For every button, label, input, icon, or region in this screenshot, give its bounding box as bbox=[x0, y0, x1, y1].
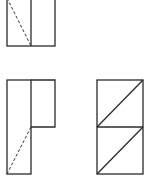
side-view-diagonal-upper bbox=[97, 80, 143, 127]
top-view bbox=[7, 0, 55, 46]
front-view-tall-part bbox=[7, 80, 31, 174]
side-view bbox=[97, 80, 143, 174]
diagram-canvas bbox=[0, 0, 144, 183]
front-view-side-part bbox=[31, 80, 55, 127]
top-view-hidden-line bbox=[7, 0, 31, 46]
front-view bbox=[7, 80, 55, 174]
front-view-hidden-line bbox=[7, 127, 31, 174]
side-view-diagonal-lower bbox=[97, 127, 143, 174]
